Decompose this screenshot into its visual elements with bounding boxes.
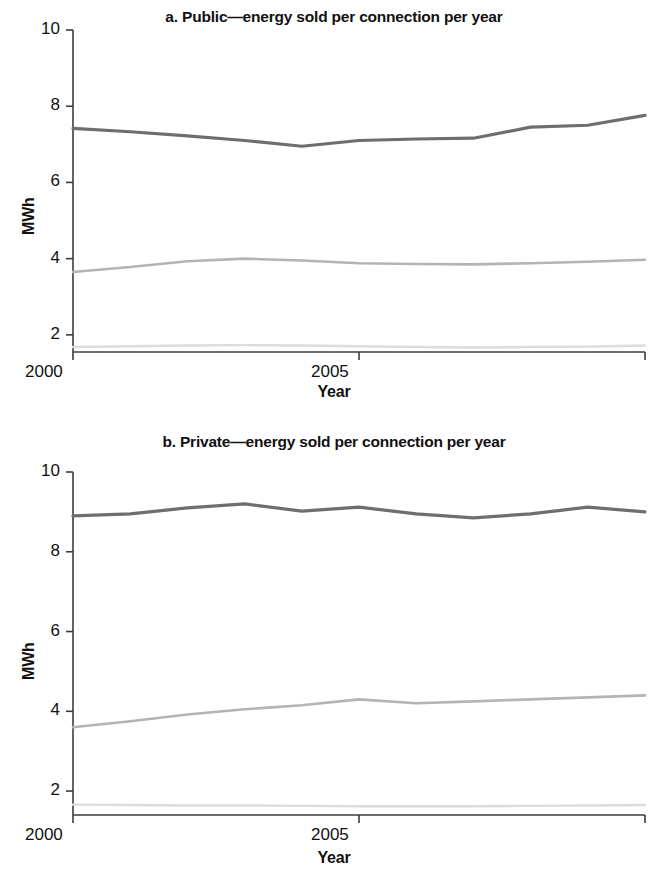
series-line-top: [73, 504, 645, 518]
x-tick-label: 2000: [25, 362, 63, 382]
y-tick-label: 2: [51, 324, 60, 344]
y-tick-label: 4: [51, 700, 60, 720]
figure-two-panel-line-charts: a. Public—energy sold per connection per…: [0, 0, 668, 888]
series-line-top: [73, 115, 645, 146]
y-tick-label: 10: [41, 461, 60, 481]
series-line-middle: [73, 259, 645, 272]
panel-public: a. Public—energy sold per connection per…: [0, 0, 668, 420]
y-tick-label: 6: [51, 171, 60, 191]
y-tick-label: 6: [51, 621, 60, 641]
panel-a-plot-area: [0, 0, 668, 420]
y-tick-label: 10: [41, 19, 60, 39]
series-line-bottom: [73, 345, 645, 347]
panel-private: b. Private—energy sold per connection pe…: [0, 425, 668, 888]
panel-b-plot-area: [0, 425, 668, 888]
x-tick-label: 2000: [25, 825, 63, 845]
series-line-bottom: [73, 805, 645, 807]
y-tick-label: 4: [51, 248, 60, 268]
y-tick-label: 8: [51, 541, 60, 561]
x-tick-label: 2005: [311, 362, 349, 382]
series-line-middle: [73, 695, 645, 727]
x-tick-label: 2005: [311, 825, 349, 845]
y-tick-label: 2: [51, 780, 60, 800]
y-tick-label: 8: [51, 95, 60, 115]
